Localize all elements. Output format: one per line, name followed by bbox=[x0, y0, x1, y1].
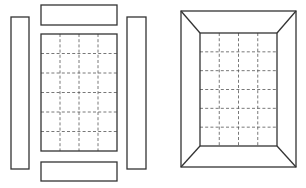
mitre-joint-line bbox=[181, 11, 200, 33]
mitre-joint-line bbox=[277, 146, 296, 167]
exploded-frame bbox=[11, 5, 146, 181]
right-strip bbox=[127, 17, 146, 169]
bottom-strip bbox=[41, 162, 117, 181]
mitre-joint-line bbox=[181, 146, 200, 167]
frame-assembly-diagram bbox=[0, 0, 306, 188]
top-strip bbox=[41, 5, 117, 25]
assembled-frame bbox=[181, 11, 296, 167]
mitre-joint-line bbox=[277, 11, 296, 33]
left-strip bbox=[11, 17, 29, 169]
